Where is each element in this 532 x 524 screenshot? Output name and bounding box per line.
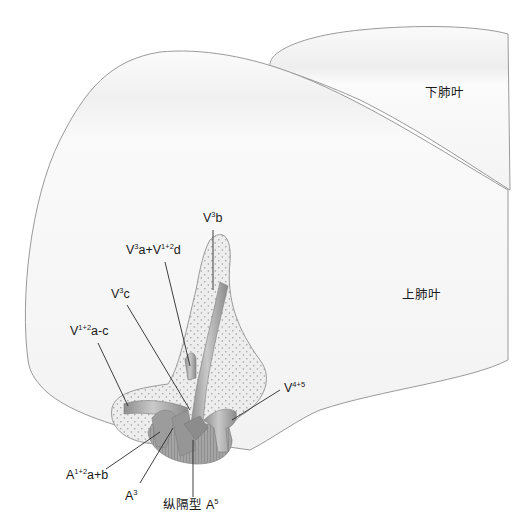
label-a12ab: A1+2a+b (66, 469, 108, 482)
label-a3: A3 (125, 490, 138, 503)
label-v45: V4+5 (284, 382, 305, 395)
label-v12ac: V1+2a-c (70, 325, 108, 338)
label-v3c: V3c (111, 288, 130, 301)
lung-hilum-diagram (0, 0, 532, 524)
upper-lobe-label: 上肺叶 (402, 289, 441, 302)
label-a5-mediastinal: 纵隔型 A5 (163, 499, 219, 512)
lower-lobe-label: 下肺叶 (425, 87, 464, 100)
label-v3a-v12d: V3a+V1+2d (126, 244, 181, 257)
label-v3b: V3b (203, 212, 222, 225)
